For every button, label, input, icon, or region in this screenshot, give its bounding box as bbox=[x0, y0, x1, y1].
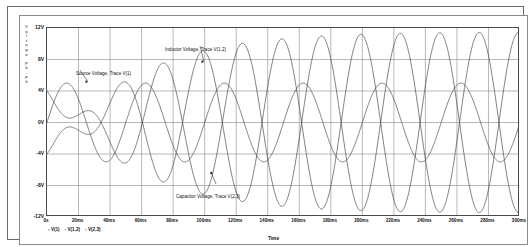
x-tick-label: 40ms bbox=[103, 218, 115, 223]
x-axis-title: Time bbox=[8, 236, 531, 241]
plot-area bbox=[46, 27, 519, 216]
x-tick-label: 180ms bbox=[323, 218, 337, 223]
y-tick-label: 8V bbox=[10, 56, 44, 61]
x-tick-label: 0s bbox=[43, 218, 48, 223]
y-tick-label: 0V bbox=[10, 119, 44, 124]
x-tick-label: 100ms bbox=[197, 218, 211, 223]
y-tick-label: -4V bbox=[10, 151, 44, 156]
x-tick-label: 20ms bbox=[72, 218, 84, 223]
y-tick-label: -12V bbox=[10, 214, 44, 219]
x-tick-label: 160ms bbox=[291, 218, 305, 223]
x-axis-tick-labels: 0s20ms40ms60ms80ms100ms120ms140ms160ms18… bbox=[46, 218, 519, 228]
y-tick-label: 4V bbox=[10, 88, 44, 93]
trace-legend[interactable]: ▫ V(1)▫ V(1,2)▫ V(2,3) bbox=[48, 227, 105, 233]
chart-outer-frame: V o l t a g e P k - P k 12V8V4V0V-4V-8V-… bbox=[7, 6, 524, 240]
x-tick-label: 280ms bbox=[480, 218, 494, 223]
x-tick-label: 140ms bbox=[260, 218, 274, 223]
legend-entry[interactable]: ▫ V(2,3) bbox=[85, 227, 100, 232]
x-tick-label: 300ms bbox=[512, 218, 526, 223]
x-tick-label: 60ms bbox=[135, 218, 147, 223]
x-tick-label: 80ms bbox=[166, 218, 178, 223]
trace-curves bbox=[47, 28, 519, 216]
annotation-source-voltage: Source Voltage, Trace V(1) bbox=[76, 71, 131, 76]
y-tick-label: -8V bbox=[10, 182, 44, 187]
legend-marker-icon: ▫ bbox=[65, 227, 67, 233]
y-axis-tick-labels: 12V8V4V0V-4V-8V-12V bbox=[8, 27, 44, 216]
x-tick-label: 240ms bbox=[417, 218, 431, 223]
legend-marker-icon: ▫ bbox=[48, 227, 50, 233]
annotation-capacitor-voltage: Capacitor Voltage, Trace V(2,3) bbox=[176, 194, 240, 199]
x-tick-label: 260ms bbox=[449, 218, 463, 223]
x-tick-label: 200ms bbox=[354, 218, 368, 223]
y-tick-label: 12V bbox=[10, 25, 44, 30]
x-tick-label: 220ms bbox=[386, 218, 400, 223]
legend-entry[interactable]: ▫ V(1,2) bbox=[65, 227, 80, 232]
annotation-inductor-voltage: Inductor Voltage, Trace V(1,2) bbox=[165, 47, 226, 52]
x-tick-label: 120ms bbox=[228, 218, 242, 223]
legend-marker-icon: ▫ bbox=[85, 227, 87, 233]
legend-entry[interactable]: ▫ V(1) bbox=[48, 227, 60, 232]
